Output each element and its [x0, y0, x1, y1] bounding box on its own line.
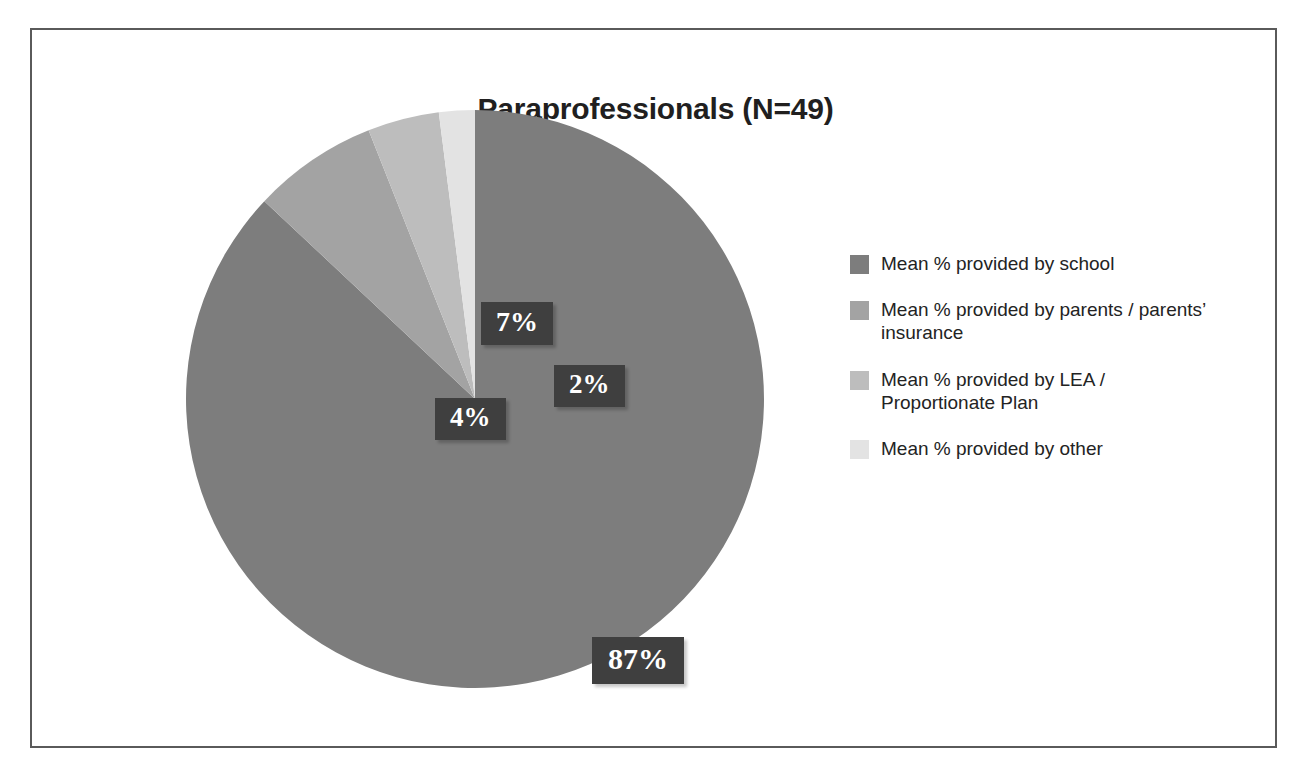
legend-item-school[interactable]: Mean % provided by school — [850, 252, 1250, 275]
legend-item-parents[interactable]: Mean % provided by parents / parents’ in… — [850, 298, 1250, 344]
legend-label-lea: Mean % provided by LEA / Proportionate P… — [881, 368, 1211, 414]
legend-label-parents: Mean % provided by parents / parents’ in… — [881, 298, 1211, 344]
legend-label-school: Mean % provided by school — [881, 252, 1114, 275]
pie-label-parents: 7% — [481, 302, 553, 345]
legend-item-lea[interactable]: Mean % provided by LEA / Proportionate P… — [850, 368, 1250, 414]
figure-container: Paraprofessionals (N=49) 87% 7% 4% 2% Me… — [0, 0, 1309, 774]
chart-frame: Paraprofessionals (N=49) 87% 7% 4% 2% Me… — [30, 28, 1277, 748]
pie-label-school: 87% — [592, 637, 684, 684]
pie-chart-area: 87% 7% 4% 2% — [154, 107, 796, 727]
legend-label-other: Mean % provided by other — [881, 437, 1103, 460]
legend-swatch-lea-icon — [850, 371, 869, 390]
pie-label-lea: 4% — [435, 398, 506, 440]
legend-swatch-other-icon — [850, 440, 869, 459]
chart-legend: Mean % provided by school Mean % provide… — [850, 252, 1250, 483]
pie-label-other: 2% — [554, 365, 625, 407]
legend-swatch-school-icon — [850, 255, 869, 274]
legend-swatch-parents-icon — [850, 301, 869, 320]
legend-item-other[interactable]: Mean % provided by other — [850, 437, 1250, 460]
